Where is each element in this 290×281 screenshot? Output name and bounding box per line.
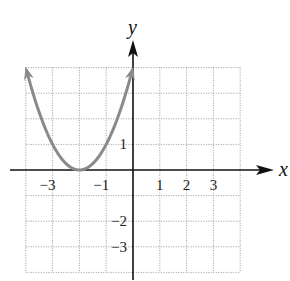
y-axis-label: y xyxy=(126,16,137,39)
labels: −3−11231−2−3xy xyxy=(40,16,288,255)
x-tick-label: −3 xyxy=(40,177,56,193)
x-tick-label: 2 xyxy=(183,177,191,193)
y-tick-label: −3 xyxy=(111,239,127,255)
y-tick-label: 1 xyxy=(120,136,128,152)
y-tick-label: −2 xyxy=(111,213,127,229)
x-tick-label: 1 xyxy=(156,177,164,193)
axes xyxy=(10,40,274,280)
x-tick-label: 3 xyxy=(210,177,218,193)
x-axis-label: x xyxy=(278,158,288,180)
parabola-chart: −3−11231−2−3xy xyxy=(0,0,290,281)
x-tick-label: −1 xyxy=(93,177,109,193)
